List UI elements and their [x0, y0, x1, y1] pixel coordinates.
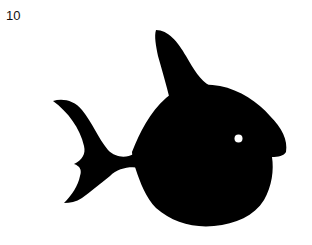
fish-eye: [235, 135, 243, 143]
fish-silhouette-icon: [0, 0, 312, 245]
fish-tail: [53, 100, 140, 203]
fish-body: [132, 85, 286, 227]
